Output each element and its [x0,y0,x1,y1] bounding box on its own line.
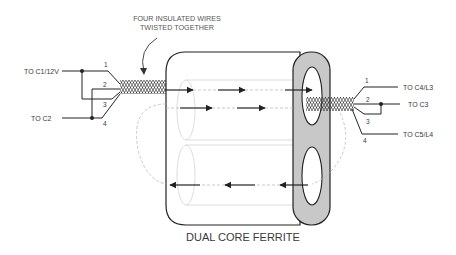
dual-core-ferrite-diagram: FOUR INSULATED WIRES TWISTED TOGETHER TO… [0,0,456,255]
left-dashed-loop [137,104,166,184]
label-to-c3: TO C3 [408,101,429,108]
wire-number-left-2: 2 [103,81,107,88]
wire-number-left-1: 1 [104,61,108,68]
label-to-c2: TO C2 [31,115,52,122]
diagram-caption: DUAL CORE FERRITE [186,231,300,243]
junction-dot [90,116,94,120]
ferrite-body [166,52,300,225]
junction-dot [379,102,383,106]
twisted-wire-bundle-right [306,97,354,111]
left-wiring [62,71,120,118]
wire-number-right-1: 1 [365,77,369,84]
wire-number-right-2: 2 [366,96,370,103]
label-to-c4-l3: TO C4/L3 [403,84,433,91]
twisted-wire-bundle-left [120,80,166,94]
wire-number-right-3: 3 [366,118,370,125]
wire-number-left-4: 4 [103,120,107,127]
label-to-c5-l4: TO C5/L4 [403,131,433,138]
ferrite-end-face [293,52,330,225]
junction-dot [80,69,84,73]
wire-number-left-3: 3 [103,101,107,108]
annotation-line-2: TWISTED TOGETHER [140,23,214,32]
annotation-arrow [143,38,157,72]
annotation-line-1: FOUR INSULATED WIRES [133,14,221,23]
right-wiring [352,87,400,134]
upper-core-hole [302,67,322,125]
annotation-arrowhead [140,68,147,75]
lower-core-hole [302,147,322,205]
wire-number-right-4: 4 [363,137,367,144]
label-to-c1-12v: TO C1/12V [24,68,59,75]
